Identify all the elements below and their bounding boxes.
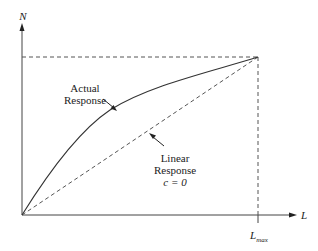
response-diagram [0, 0, 318, 251]
linear-response-line [22, 57, 258, 215]
linear-label-line2: Response [145, 164, 205, 176]
y-axis-label: N [17, 10, 29, 22]
x-axis-arrowhead-icon [289, 213, 297, 218]
lmax-label-sub: max [256, 236, 268, 244]
linear-label-line3: c = 0 [145, 176, 205, 188]
actual-response-label: Actual Response [60, 82, 110, 106]
linear-response-label: Linear Response c = 0 [145, 152, 205, 188]
x-axis-label: L [299, 209, 309, 221]
linear-label-line1: Linear [145, 152, 205, 164]
actual-label-line1: Actual [60, 82, 110, 94]
y-axis-arrowhead-icon [20, 23, 25, 31]
actual-label-line2: Response [60, 94, 110, 106]
lmax-label: Lmax [244, 229, 274, 246]
linear-pointer-arrow [153, 137, 164, 146]
